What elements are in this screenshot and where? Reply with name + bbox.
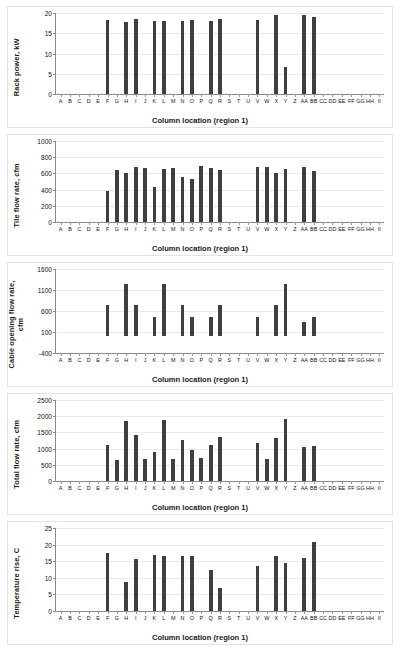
x-tick-label-Q: Q <box>209 226 213 232</box>
x-tick-P <box>201 222 202 225</box>
x-tick-label-AA: AA <box>301 98 308 104</box>
x-tick-label-H: H <box>124 615 128 621</box>
x-tick-label-P: P <box>199 226 203 232</box>
x-tick-label-II: II <box>378 485 381 491</box>
x-tick-GG <box>361 353 362 356</box>
y-tick-labels-5: 0510152025 <box>28 528 54 611</box>
x-tick-Y <box>286 94 287 97</box>
x-tick-DD <box>332 353 333 356</box>
x-tick-E <box>98 94 99 97</box>
x-tick-label-AA: AA <box>301 357 308 363</box>
x-tick-label-W: W <box>264 615 269 621</box>
x-tick-R <box>220 222 221 225</box>
bar-V <box>256 317 260 336</box>
y-tick-label-5-2: 10 <box>45 574 52 581</box>
bar-V <box>256 167 260 222</box>
x-tick-label-U: U <box>246 615 250 621</box>
x-tick-label-F: F <box>106 98 109 104</box>
x-tick-label-H: H <box>124 226 128 232</box>
bar-BB <box>312 171 316 222</box>
x-tick-BB <box>314 481 315 484</box>
x-tick-C <box>79 481 80 484</box>
x-tick-M <box>173 94 174 97</box>
bar-N <box>181 440 185 481</box>
x-tick-label-K: K <box>153 485 157 491</box>
x-tick-G <box>117 481 118 484</box>
x-tick-label-R: R <box>218 226 222 232</box>
bar-H <box>124 22 128 94</box>
x-tick-label-S: S <box>228 357 232 363</box>
x-tick-HH <box>370 353 371 356</box>
x-tick-label-GG: GG <box>356 357 364 363</box>
x-tick-label-DD: DD <box>329 98 337 104</box>
x-tick-D <box>89 353 90 356</box>
x-tick-M <box>173 353 174 356</box>
x-tick-A <box>61 222 62 225</box>
bar-L <box>162 21 166 94</box>
x-tick-label-E: E <box>96 485 100 491</box>
x-tick-I <box>136 481 137 484</box>
y-axis-title-text-5: Temperature rise, C <box>13 548 22 619</box>
x-tick-label-C: C <box>77 98 81 104</box>
bar-BB <box>312 17 316 94</box>
x-tick-label-Y: Y <box>284 485 288 491</box>
x-tick-FF <box>351 94 352 97</box>
x-tick-label-D: D <box>87 615 91 621</box>
x-tick-label-T: T <box>237 357 240 363</box>
x-tick-EE <box>342 481 343 484</box>
x-tick-label-A: A <box>59 357 63 363</box>
x-tick-F <box>108 481 109 484</box>
x-tick-J <box>145 481 146 484</box>
x-tick-label-A: A <box>59 226 63 232</box>
bar-X <box>274 15 278 94</box>
y-tick-label-2-2: 400 <box>41 186 52 193</box>
x-tick-K <box>154 481 155 484</box>
x-tick-label-V: V <box>256 98 260 104</box>
x-tick-label-U: U <box>246 226 250 232</box>
bar-X <box>274 438 278 481</box>
x-tick-label-J: J <box>144 615 147 621</box>
x-tick-EE <box>342 94 343 97</box>
x-tick-Q <box>211 481 212 484</box>
x-tick-label-E: E <box>96 98 100 104</box>
x-tick-W <box>267 353 268 356</box>
x-tick-label-K: K <box>153 226 157 232</box>
x-tick-label-M: M <box>171 357 176 363</box>
y-tick-label-2-3: 600 <box>41 170 52 177</box>
x-tick-H <box>126 481 127 484</box>
x-tick-label-HH: HH <box>366 98 374 104</box>
x-ticks-2 <box>56 222 384 225</box>
x-tick-labels-1: ABCDEFGHIJKLMNOPQRSTUVWXYZAABBCCDDEEFFGG… <box>56 98 384 111</box>
x-tick-label-A: A <box>59 98 63 104</box>
x-tick-HH <box>370 611 371 614</box>
x-tick-label-CC: CC <box>319 226 327 232</box>
x-tick-label-O: O <box>190 357 194 363</box>
x-tick-label-L: L <box>162 98 165 104</box>
y-tick-label-3-0: -400 <box>39 350 52 357</box>
bar-Q <box>209 570 213 611</box>
x-tick-label-BB: BB <box>310 615 317 621</box>
x-tick-Y <box>286 481 287 484</box>
x-tick-label-I: I <box>135 357 137 363</box>
x-tick-label-P: P <box>199 485 203 491</box>
x-tick-B <box>70 222 71 225</box>
x-tick-label-P: P <box>199 615 203 621</box>
x-tick-label-H: H <box>124 98 128 104</box>
bar-series-2 <box>56 141 384 222</box>
x-tick-D <box>89 611 90 614</box>
bar-Q <box>209 445 213 481</box>
x-tick-label-C: C <box>77 615 81 621</box>
x-tick-I <box>136 222 137 225</box>
bar-R <box>218 588 222 611</box>
x-tick-label-V: V <box>256 226 260 232</box>
bar-V <box>256 566 260 611</box>
x-tick-K <box>154 611 155 614</box>
x-tick-O <box>192 353 193 356</box>
chart-panel-2: Tile flow rate, cfm02004006008001000ABCD… <box>7 134 393 256</box>
bar-L <box>162 420 166 481</box>
x-tick-R <box>220 94 221 97</box>
x-tick-BB <box>314 94 315 97</box>
bar-series-5 <box>56 528 384 611</box>
bar-R <box>218 305 222 336</box>
x-tick-BB <box>314 353 315 356</box>
